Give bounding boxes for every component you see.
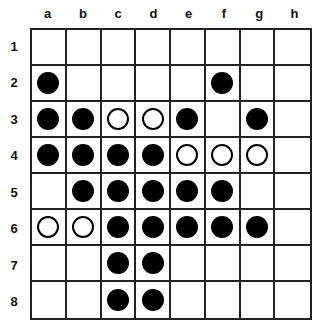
row-label-3: 3 xyxy=(0,101,28,138)
white-piece-icon xyxy=(142,108,164,130)
cell-d7[interactable] xyxy=(136,246,171,282)
cell-c4[interactable] xyxy=(102,138,137,174)
cell-g4[interactable] xyxy=(241,138,276,174)
cell-b5[interactable] xyxy=(67,174,102,210)
cell-c8[interactable] xyxy=(102,282,137,318)
cell-e4[interactable] xyxy=(171,138,206,174)
cell-b2[interactable] xyxy=(67,66,102,102)
column-label-a: a xyxy=(30,4,65,24)
cell-d5[interactable] xyxy=(136,174,171,210)
column-labels: abcdefgh xyxy=(30,4,312,24)
black-piece-icon xyxy=(246,108,268,130)
cell-g5[interactable] xyxy=(241,174,276,210)
cell-h1[interactable] xyxy=(275,30,310,66)
row-label-5: 5 xyxy=(0,174,28,211)
cell-c3[interactable] xyxy=(102,102,137,138)
cell-g8[interactable] xyxy=(241,282,276,318)
column-label-g: g xyxy=(242,4,277,24)
cell-g1[interactable] xyxy=(241,30,276,66)
cell-e6[interactable] xyxy=(171,210,206,246)
column-label-e: e xyxy=(171,4,206,24)
cell-c1[interactable] xyxy=(102,30,137,66)
black-piece-icon xyxy=(107,252,129,274)
cell-f1[interactable] xyxy=(206,30,241,66)
row-label-2: 2 xyxy=(0,65,28,102)
cell-h8[interactable] xyxy=(275,282,310,318)
cell-d4[interactable] xyxy=(136,138,171,174)
column-label-h: h xyxy=(277,4,312,24)
cell-a2[interactable] xyxy=(32,66,67,102)
cell-a6[interactable] xyxy=(32,210,67,246)
cell-d3[interactable] xyxy=(136,102,171,138)
black-piece-icon xyxy=(37,144,59,166)
white-piece-icon xyxy=(176,144,198,166)
cell-d1[interactable] xyxy=(136,30,171,66)
cell-b3[interactable] xyxy=(67,102,102,138)
cell-d8[interactable] xyxy=(136,282,171,318)
cell-d6[interactable] xyxy=(136,210,171,246)
cell-a3[interactable] xyxy=(32,102,67,138)
cell-f7[interactable] xyxy=(206,246,241,282)
column-label-d: d xyxy=(136,4,171,24)
black-piece-icon xyxy=(246,216,268,238)
column-label-f: f xyxy=(206,4,241,24)
cell-f4[interactable] xyxy=(206,138,241,174)
cell-a8[interactable] xyxy=(32,282,67,318)
cell-b6[interactable] xyxy=(67,210,102,246)
cell-c6[interactable] xyxy=(102,210,137,246)
cell-e1[interactable] xyxy=(171,30,206,66)
black-piece-icon xyxy=(176,216,198,238)
black-piece-icon xyxy=(211,216,233,238)
cell-f6[interactable] xyxy=(206,210,241,246)
cell-h3[interactable] xyxy=(275,102,310,138)
cell-a1[interactable] xyxy=(32,30,67,66)
black-piece-icon xyxy=(142,216,164,238)
cell-b4[interactable] xyxy=(67,138,102,174)
row-labels: 12345678 xyxy=(0,28,28,320)
cell-a4[interactable] xyxy=(32,138,67,174)
cell-f2[interactable] xyxy=(206,66,241,102)
cell-b8[interactable] xyxy=(67,282,102,318)
cell-f8[interactable] xyxy=(206,282,241,318)
cell-h4[interactable] xyxy=(275,138,310,174)
white-piece-icon xyxy=(107,108,129,130)
white-piece-icon xyxy=(37,216,59,238)
cell-c2[interactable] xyxy=(102,66,137,102)
black-piece-icon xyxy=(176,108,198,130)
cell-h5[interactable] xyxy=(275,174,310,210)
cell-b1[interactable] xyxy=(67,30,102,66)
cell-g3[interactable] xyxy=(241,102,276,138)
row-label-6: 6 xyxy=(0,211,28,248)
cell-h6[interactable] xyxy=(275,210,310,246)
black-piece-icon xyxy=(142,144,164,166)
cell-e3[interactable] xyxy=(171,102,206,138)
cell-h2[interactable] xyxy=(275,66,310,102)
cell-a5[interactable] xyxy=(32,174,67,210)
black-piece-icon xyxy=(142,252,164,274)
cell-g7[interactable] xyxy=(241,246,276,282)
white-piece-icon xyxy=(211,144,233,166)
cell-c5[interactable] xyxy=(102,174,137,210)
black-piece-icon xyxy=(211,180,233,202)
cell-f5[interactable] xyxy=(206,174,241,210)
cell-f3[interactable] xyxy=(206,102,241,138)
game-board xyxy=(30,28,312,320)
cell-b7[interactable] xyxy=(67,246,102,282)
black-piece-icon xyxy=(72,108,94,130)
cell-e8[interactable] xyxy=(171,282,206,318)
row-label-4: 4 xyxy=(0,138,28,175)
cell-d2[interactable] xyxy=(136,66,171,102)
cell-e2[interactable] xyxy=(171,66,206,102)
white-piece-icon xyxy=(72,216,94,238)
cell-e5[interactable] xyxy=(171,174,206,210)
column-label-c: c xyxy=(101,4,136,24)
black-piece-icon xyxy=(107,180,129,202)
cell-a7[interactable] xyxy=(32,246,67,282)
cell-h7[interactable] xyxy=(275,246,310,282)
cell-g2[interactable] xyxy=(241,66,276,102)
cell-g6[interactable] xyxy=(241,210,276,246)
black-piece-icon xyxy=(142,180,164,202)
black-piece-icon xyxy=(37,72,59,94)
cell-e7[interactable] xyxy=(171,246,206,282)
cell-c7[interactable] xyxy=(102,246,137,282)
